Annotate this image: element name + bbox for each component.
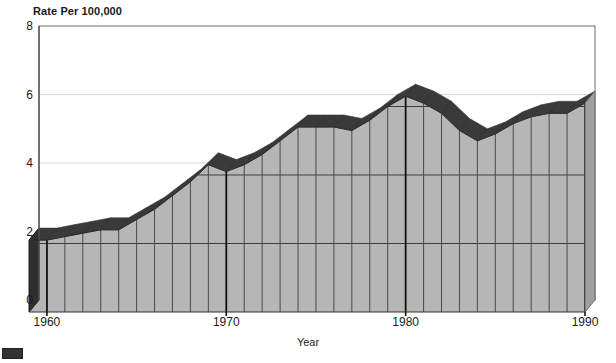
y-axis-tick-label: 0 <box>9 294 33 306</box>
y-axis-tick-label: 4 <box>9 157 33 169</box>
right-side-face <box>585 91 595 312</box>
plot-area <box>0 0 616 363</box>
x-axis-tick-label: 1960 <box>25 316 69 328</box>
y-axis-tick-label: 6 <box>9 89 33 101</box>
x-axis-tick-label: 1980 <box>384 316 428 328</box>
x-axis-tick-label: 1970 <box>204 316 248 328</box>
y-axis-tick-label: 8 <box>9 20 33 32</box>
rate-per-100000-area-chart: Rate Per 100,000 Year 02468 196019701980… <box>0 0 616 363</box>
x-axis-tick-label: 1990 <box>563 316 607 328</box>
y-axis-tick-label: 2 <box>9 226 33 238</box>
